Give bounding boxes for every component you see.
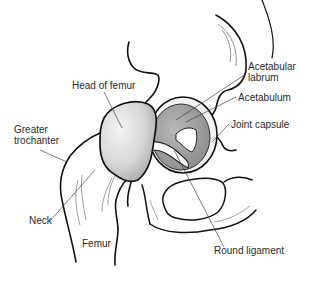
label-acetabular-labrum: Acetabular labrum xyxy=(248,61,296,83)
pubis-outline xyxy=(142,177,256,232)
label-neck: Neck xyxy=(29,215,52,226)
label-round-ligament: Round ligament xyxy=(214,245,284,256)
label-greater-trochanter: Greater trochanter xyxy=(14,124,59,146)
label-acetabulum: Acetabulum xyxy=(238,92,291,103)
femoral-head xyxy=(100,102,156,182)
label-femur: Femur xyxy=(82,238,111,249)
label-head-of-femur: Head of femur xyxy=(72,80,135,91)
label-joint-capsule: Joint capsule xyxy=(231,119,289,130)
femur-detail-lines xyxy=(76,174,116,225)
